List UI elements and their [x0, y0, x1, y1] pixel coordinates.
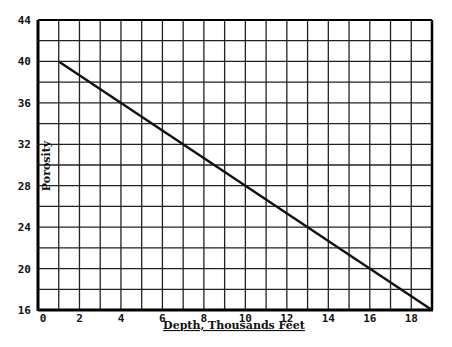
y-tick-label: 20	[18, 263, 31, 276]
x-tick-label: 16	[363, 312, 377, 325]
x-tick-label: 14	[322, 312, 336, 325]
y-tick-label: 40	[18, 55, 31, 68]
y-tick-label: 36	[18, 97, 32, 110]
grid-lines	[38, 20, 432, 310]
y-tick-label: 16	[18, 304, 32, 317]
x-tick-label: 2	[76, 312, 83, 325]
x-axis-label: Depth, Thousands Feet	[163, 319, 306, 332]
porosity-depth-chart: 1620242832364044 024681012141618 Porosit…	[0, 0, 452, 347]
y-tick-label: 28	[18, 180, 31, 193]
y-axis-label: Porosity	[40, 140, 53, 191]
y-tick-label: 24	[18, 221, 32, 234]
x-tick-label: 0	[40, 312, 47, 325]
y-tick-label: 32	[18, 138, 31, 151]
y-tick-label: 44	[18, 14, 32, 27]
x-tick-label: 18	[405, 312, 418, 325]
x-tick-label: 4	[118, 312, 125, 325]
y-axis-tick-labels: 1620242832364044	[18, 14, 32, 317]
